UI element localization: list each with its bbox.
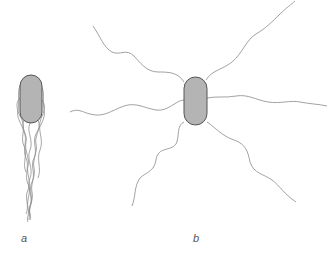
panel-b-label: b bbox=[193, 232, 199, 244]
cell-a bbox=[20, 75, 42, 123]
flagella-diagram bbox=[0, 0, 327, 253]
panel-a-label: a bbox=[21, 232, 27, 244]
cell-b bbox=[184, 77, 207, 125]
